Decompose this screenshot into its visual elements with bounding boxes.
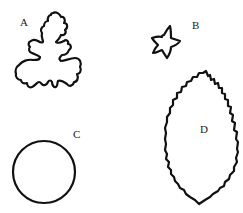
label-b: B xyxy=(192,20,199,31)
figure-canvas: A B C D xyxy=(0,0,243,213)
label-a: A xyxy=(20,17,28,28)
shapes-svg xyxy=(0,0,243,213)
shape-c-circle xyxy=(13,141,75,203)
label-d: D xyxy=(200,124,208,135)
shape-b-flower xyxy=(152,26,180,58)
label-c: C xyxy=(73,129,80,140)
shape-d-serrated-leaf xyxy=(165,71,238,204)
